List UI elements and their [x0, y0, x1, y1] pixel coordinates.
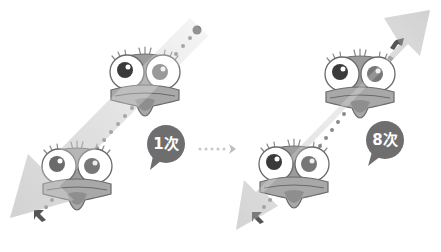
arrow-right-icon [229, 144, 236, 154]
left-panel [10, 6, 208, 222]
right-panel [236, 10, 430, 230]
illustration-canvas [0, 0, 441, 252]
small-arrowhead-icon [34, 210, 46, 222]
connector-dotted-arrow [199, 144, 237, 154]
count-label-left: 1次 [148, 133, 184, 155]
count-label-right: 8次 [367, 129, 403, 151]
ostrich-face-upper [325, 49, 395, 118]
